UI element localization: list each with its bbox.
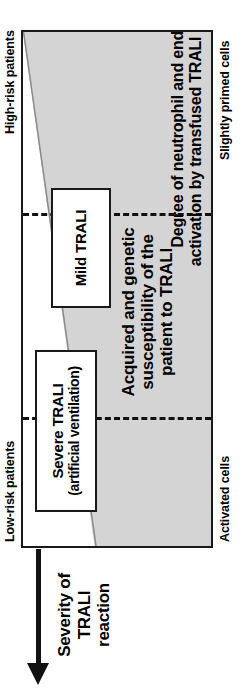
susceptibility-axis-text: Acquired and genetic susceptibility of t…: [119, 162, 176, 462]
callout-severe-subtitle: (artificial ventilation): [67, 366, 82, 496]
activation-axis-text: Degree of neutrophil and endothelial act…: [169, 30, 205, 328]
activation-line-2: activation by transfused TRALI mediators: [187, 30, 204, 266]
activation-line-1: Degree of neutrophil and endothelial: [169, 30, 186, 248]
axis-label-high-risk-patients: High-risk patients: [3, 30, 17, 134]
callout-severe-title: Severe TRALI: [50, 383, 66, 478]
axis-label-activated-cells: Activated cells: [218, 456, 232, 542]
figure-stage: Low-risk patients High-risk patients Act…: [0, 0, 246, 700]
susceptibility-line-1: Acquired and genetic: [119, 228, 138, 397]
severity-arrow-line: [36, 549, 41, 667]
callout-mild-trali: Mild TRALI: [51, 188, 111, 308]
severity-caption-line-2: TRALI: [75, 591, 94, 640]
axis-label-slightly-primed-cells: Slightly primed cells: [218, 41, 232, 160]
plot-area: Acquired and genetic susceptibility of t…: [21, 30, 213, 548]
severity-arrow-head-icon: [27, 663, 49, 685]
severity-caption-line-3: reaction: [94, 583, 113, 647]
severity-caption-line-1: Severity of: [55, 573, 74, 657]
axis-label-low-risk-patients: Low-risk patients: [3, 441, 17, 542]
susceptibility-line-2: susceptibility of the: [138, 234, 157, 389]
callout-severe-trali: Severe TRALI (artificial ventilation): [35, 350, 97, 512]
severity-axis-caption: Severity of TRALI reaction: [55, 551, 114, 679]
callout-mild-title: Mild TRALI: [73, 210, 89, 286]
severity-axis: Severity of TRALI reaction: [21, 553, 213, 685]
